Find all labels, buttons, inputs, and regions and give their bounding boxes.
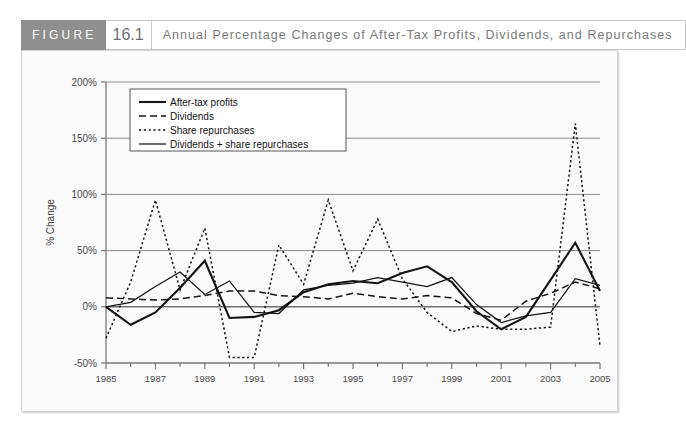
series-share-repurchases: [106, 124, 600, 358]
figure-title: Annual Percentage Changes of After-Tax P…: [152, 20, 686, 50]
xtick-label-1993: 1993: [293, 373, 314, 384]
xtick-label-1991: 1991: [244, 373, 265, 384]
series-dividends-share-repurchases: [106, 272, 600, 323]
ytick-label-0: 0%: [83, 301, 98, 312]
legend-label-0: After-tax profits: [170, 97, 238, 108]
ytick-label-50: 50%: [77, 245, 97, 256]
ytick-label--50: -50%: [74, 358, 97, 369]
legend-label-1: Dividends: [170, 111, 214, 122]
xtick-label-1987: 1987: [145, 373, 166, 384]
figure-header: FIGURE 16.1 Annual Percentage Changes of…: [21, 20, 686, 50]
xtick-label-2003: 2003: [540, 373, 561, 384]
ytick-label-100: 100%: [71, 189, 97, 200]
xtick-label-2005: 2005: [589, 373, 610, 384]
xtick-label-1989: 1989: [194, 373, 215, 384]
line-chart: -50%0%50%100%150%200%1985198719891991199…: [22, 51, 619, 413]
figure-card: -50%0%50%100%150%200%1985198719891991199…: [21, 50, 618, 412]
y-axis-title: % Change: [45, 199, 56, 246]
xtick-label-1985: 1985: [95, 373, 116, 384]
figure-word-label: FIGURE: [21, 20, 106, 50]
legend-label-2: Share repurchases: [170, 125, 255, 136]
legend-label-3: Dividends + share repurchases: [170, 139, 308, 150]
xtick-label-1997: 1997: [392, 373, 413, 384]
xtick-label-2001: 2001: [491, 373, 512, 384]
chart-container: -50%0%50%100%150%200%1985198719891991199…: [22, 51, 619, 413]
figure-number: 16.1: [106, 20, 152, 50]
ytick-label-150: 150%: [71, 133, 97, 144]
xtick-label-1999: 1999: [441, 373, 462, 384]
xtick-label-1995: 1995: [342, 373, 363, 384]
ytick-label-200: 200%: [71, 77, 97, 88]
